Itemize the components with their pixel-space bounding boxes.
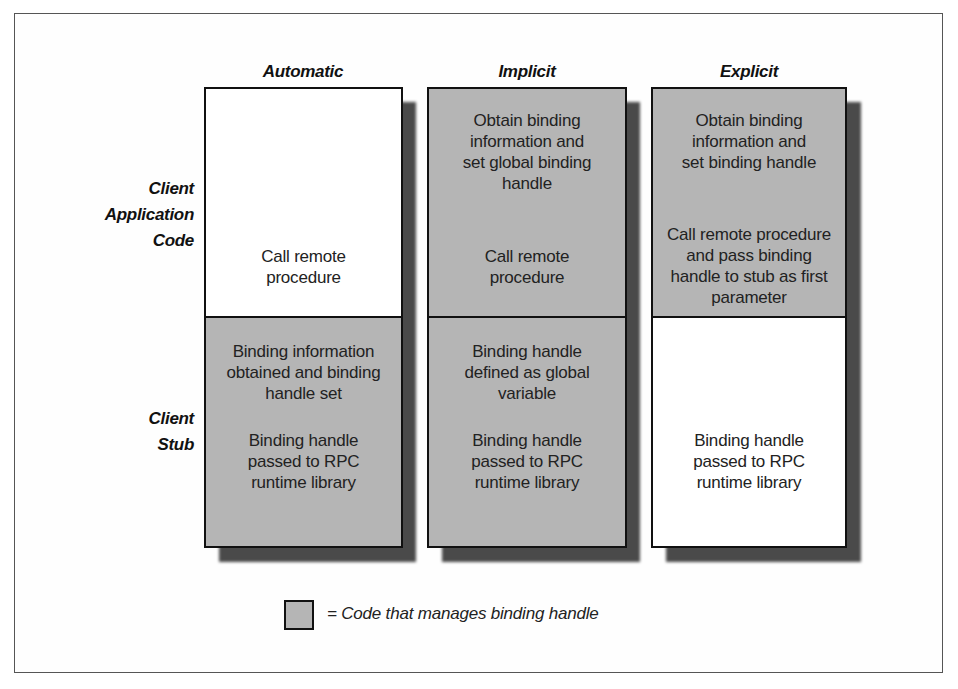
column-automatic: Call remote procedure Binding informatio… bbox=[204, 87, 403, 548]
cell-implicit-client-application-code: Obtain binding information and set globa… bbox=[429, 89, 625, 318]
cell-text: Binding handle defined as global variabl… bbox=[433, 341, 621, 404]
cell-text: Call remote procedure and pass binding h… bbox=[657, 224, 841, 308]
cell-implicit-client-stub: Binding handle defined as global variabl… bbox=[429, 318, 625, 546]
cell-text: Obtain binding information and set globa… bbox=[433, 110, 621, 194]
row-label-client-application-code: Client Application Code bbox=[105, 176, 194, 254]
cell-text: Obtain binding information and set bindi… bbox=[657, 110, 841, 173]
cell-explicit-client-stub: Binding handle passed to RPC runtime lib… bbox=[653, 318, 845, 546]
legend-swatch bbox=[284, 600, 314, 630]
cell-automatic-client-application-code: Call remote procedure bbox=[206, 89, 401, 318]
row-label-client-stub: Client Stub bbox=[149, 406, 194, 458]
column-explicit: Obtain binding information and set bindi… bbox=[651, 87, 847, 548]
cell-text: Binding handle passed to RPC runtime lib… bbox=[657, 430, 841, 493]
column-title-explicit: Explicit bbox=[649, 62, 849, 82]
cell-text: Binding information obtained and binding… bbox=[210, 341, 397, 404]
cell-text: Binding handle passed to RPC runtime lib… bbox=[210, 430, 397, 493]
cell-text: Call remote procedure bbox=[433, 246, 621, 288]
column-title-automatic: Automatic bbox=[203, 62, 403, 82]
cell-explicit-client-application-code: Obtain binding information and set bindi… bbox=[653, 89, 845, 318]
cell-text: Call remote procedure bbox=[210, 246, 397, 288]
column-implicit: Obtain binding information and set globa… bbox=[427, 87, 627, 548]
column-title-implicit: Implicit bbox=[427, 62, 627, 82]
legend-text: = Code that manages binding handle bbox=[327, 604, 599, 624]
cell-text: Binding handle passed to RPC runtime lib… bbox=[433, 430, 621, 493]
cell-automatic-client-stub: Binding information obtained and binding… bbox=[206, 318, 401, 546]
